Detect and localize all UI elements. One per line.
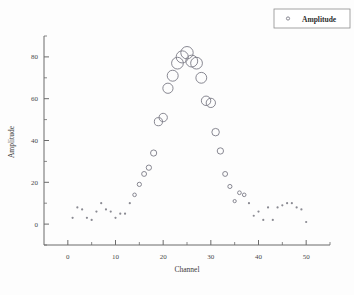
data-point [248, 202, 250, 204]
x-tick-label: 40 [255, 253, 263, 261]
axes [44, 36, 330, 245]
data-point [137, 182, 141, 186]
data-point [151, 150, 157, 156]
data-point [146, 165, 151, 170]
data-point [72, 217, 74, 219]
y-tick-label: 0 [35, 221, 39, 229]
scatter-chart: 01020304050 020406080 Channel Amplitude … [0, 0, 354, 295]
chart-legend: Amplitude [274, 9, 350, 28]
data-point [76, 206, 78, 208]
data-point [228, 184, 232, 188]
y-axis-title: Amplitude [7, 125, 16, 158]
data-point [257, 210, 259, 212]
data-point [272, 219, 274, 221]
data-point [305, 221, 307, 223]
data-point [291, 202, 293, 204]
data-point [223, 171, 228, 176]
data-point [242, 193, 246, 197]
data-point [163, 83, 173, 93]
y-tick-label: 20 [31, 179, 39, 187]
data-point [253, 215, 255, 217]
data-point [217, 148, 223, 154]
y-axis-ticks [44, 36, 49, 245]
legend-label-amplitude: Amplitude [302, 15, 337, 24]
data-point [281, 204, 283, 206]
data-point [91, 219, 93, 221]
data-point [95, 210, 97, 212]
chart-canvas: 01020304050 020406080 Channel Amplitude … [0, 0, 354, 295]
data-point [129, 202, 131, 204]
data-point [212, 128, 219, 135]
data-point [196, 72, 207, 83]
data-point [100, 202, 102, 204]
x-axis-tick-labels: 01020304050 [66, 253, 310, 261]
y-tick-label: 60 [31, 95, 39, 103]
data-point [167, 70, 178, 81]
x-tick-label: 10 [112, 253, 120, 261]
data-point [119, 213, 121, 215]
data-point [159, 113, 167, 121]
data-point [296, 206, 298, 208]
data-point [233, 199, 236, 202]
data-point [124, 213, 126, 215]
x-tick-label: 0 [66, 253, 70, 261]
data-point [276, 206, 278, 208]
x-axis-title: Channel [175, 265, 200, 274]
y-tick-label: 40 [31, 137, 39, 145]
data-point-group [72, 47, 308, 224]
x-tick-label: 30 [207, 253, 215, 261]
data-point [105, 208, 107, 210]
y-axis-tick-labels: 020406080 [31, 53, 39, 228]
data-point [110, 210, 112, 212]
data-point [286, 202, 288, 204]
x-axis-ticks [68, 240, 330, 245]
data-point [86, 217, 88, 219]
y-tick-label: 80 [31, 53, 39, 61]
data-point [300, 208, 302, 210]
data-point [238, 191, 242, 195]
data-point [191, 57, 203, 69]
data-point [81, 208, 83, 210]
data-point [133, 193, 137, 197]
data-point [142, 171, 147, 176]
x-tick-label: 50 [303, 253, 311, 261]
x-tick-label: 20 [160, 253, 168, 261]
data-point [114, 217, 116, 219]
data-point [267, 206, 269, 208]
data-point [262, 219, 264, 221]
